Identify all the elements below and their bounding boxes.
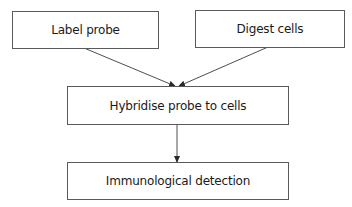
node-hybridise-probe: Hybridise probe to cells bbox=[67, 86, 289, 125]
node-label: Hybridise probe to cells bbox=[110, 99, 247, 113]
node-immunological-detection: Immunological detection bbox=[67, 162, 289, 200]
node-label-probe: Label probe bbox=[12, 11, 159, 49]
node-label: Label probe bbox=[51, 23, 120, 37]
arrow-label-to-hybridise bbox=[84, 48, 175, 86]
node-digest-cells: Digest cells bbox=[195, 10, 345, 48]
arrow-digest-to-hybridise bbox=[179, 47, 268, 86]
node-label: Immunological detection bbox=[106, 174, 250, 188]
node-label: Digest cells bbox=[237, 22, 304, 36]
